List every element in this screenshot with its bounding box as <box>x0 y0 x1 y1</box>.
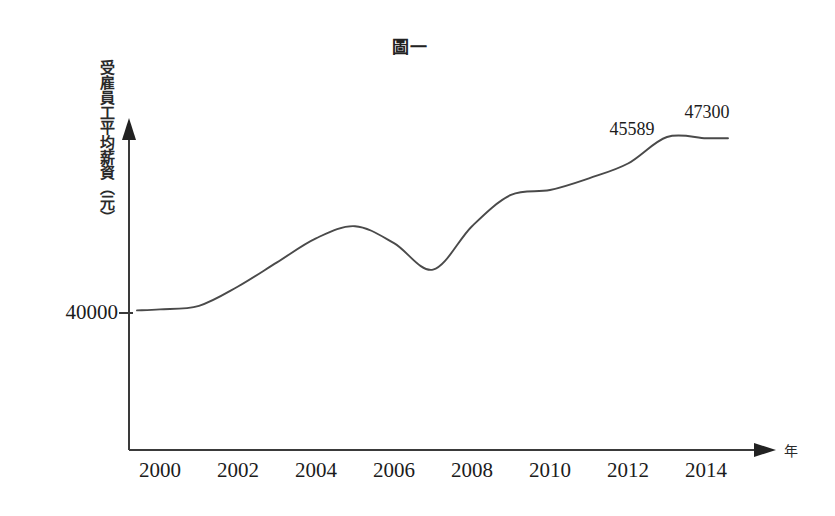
arrow-up-icon <box>122 118 136 140</box>
chart-plot-area <box>0 0 835 516</box>
arrow-right-icon <box>754 443 776 457</box>
salary-line-series <box>137 135 728 310</box>
figure-container: 圖一 受雇員工平均薪資（元） 40000 年 2000 2002 2004 20… <box>0 0 835 516</box>
